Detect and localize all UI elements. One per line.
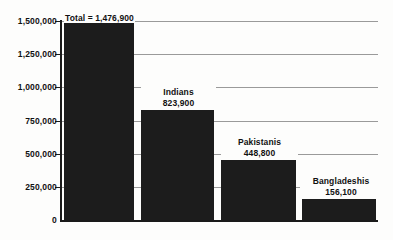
y-axis-label-250000: 250,000 <box>25 183 57 192</box>
bar-total <box>64 21 134 220</box>
y-axis-label-750000: 750,000 <box>25 117 57 126</box>
annotation-pakistanis-value: 448,800 <box>222 148 297 159</box>
x-axis-line <box>60 220 378 222</box>
annotation-bangladeshis: Bangladeshis 156,100 <box>300 176 382 197</box>
y-axis-label-1000000: 1,000,000 <box>18 83 57 92</box>
annotation-indians-value: 823,900 <box>142 98 215 109</box>
annotation-total: Total = 1,476,900 <box>64 13 135 23</box>
y-axis-line <box>60 20 62 221</box>
annotation-pakistanis-label: Pakistanis <box>222 137 297 148</box>
annotation-bangladeshis-label: Bangladeshis <box>301 176 381 187</box>
annotation-pakistanis: Pakistanis 448,800 <box>221 137 298 158</box>
annotation-bangladeshis-value: 156,100 <box>301 187 381 198</box>
y-axis-label-500000: 500,000 <box>25 150 57 159</box>
bar-pakistanis <box>221 160 296 220</box>
bar-indians <box>141 110 214 220</box>
y-axis-label-1500000: 1,500,000 <box>18 17 57 26</box>
bar-chart: 1,500,000 1,250,000 1,000,000 750,000 50… <box>0 0 393 240</box>
y-axis-label-0: 0 <box>52 216 57 225</box>
bar-bangladeshis <box>302 199 376 220</box>
annotation-indians-label: Indians <box>142 87 215 98</box>
y-axis-label-1250000: 1,250,000 <box>18 50 57 59</box>
annotation-indians: Indians 823,900 <box>141 87 216 108</box>
